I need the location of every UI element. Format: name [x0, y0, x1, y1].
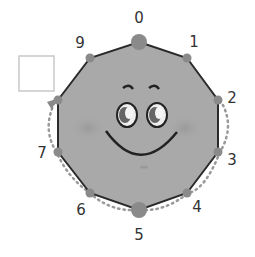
vertex-label-7: 7: [37, 146, 47, 161]
vertex-label-4: 4: [192, 200, 202, 215]
vertex-label-0: 0: [134, 11, 144, 26]
vertex-label-5: 5: [134, 228, 144, 243]
vertex-label-9: 9: [75, 36, 85, 51]
vertex-label-3: 3: [227, 153, 237, 168]
vertex-label-2: 2: [227, 91, 237, 106]
decagon-diagram: [0, 0, 255, 257]
vertex-label-1: 1: [189, 35, 199, 50]
answer-box: [19, 56, 54, 91]
vertex-label-6: 6: [76, 203, 86, 218]
